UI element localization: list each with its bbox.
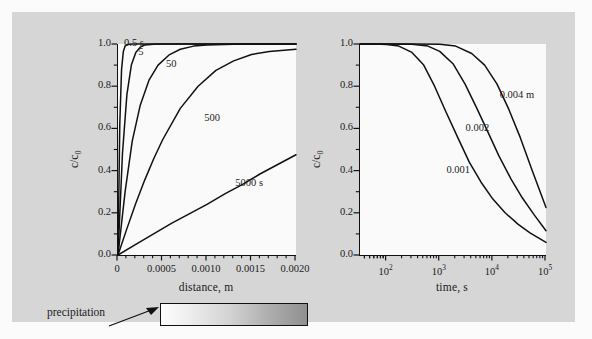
precipitation-label: precipitation [47, 306, 105, 318]
xtick-label-1: 0.0005 [138, 263, 186, 274]
xtick-label-1: 103 [415, 263, 463, 277]
precipitation-arrow-icon [107, 304, 167, 330]
yaxis-title: c/c0 [310, 150, 325, 168]
ytick-label-3: 0.6 [327, 121, 353, 132]
precipitation-gradient-bar [160, 303, 308, 326]
curve-label-500-s: 500 [204, 112, 220, 123]
xaxis-title: time, s [412, 281, 492, 293]
xtick-label-2: 104 [468, 263, 516, 277]
ytick-label-3: 0.6 [85, 121, 111, 132]
ytick-label-4: 0.8 [85, 79, 111, 90]
ytick-label-1: 0.2 [327, 206, 353, 217]
xtick-label-4: 0.0020 [271, 263, 319, 274]
ytick-label-0: 0.0 [85, 248, 111, 259]
right-plot-axis-ticks [359, 44, 551, 274]
curve-label-50-s: 50 [166, 58, 177, 69]
xtick-label-0: 0 [93, 263, 141, 274]
left-plot-axis-ticks [117, 44, 302, 274]
yaxis-title: c/c0 [68, 150, 83, 168]
figure-panel: 0.00.20.40.60.81.000.00050.00100.00150.0… [12, 12, 575, 322]
xtick-label-2: 0.0010 [182, 263, 230, 274]
ytick-label-5: 1.0 [327, 37, 353, 48]
curve-label-0-004-m: 0.004 m [500, 89, 534, 100]
ytick-label-4: 0.8 [327, 79, 353, 90]
xtick-label-3: 0.0015 [227, 263, 275, 274]
curve-label-5000-s: 5000 s [235, 177, 263, 188]
xtick-label-3: 105 [521, 263, 569, 277]
curve-label-0-001-m: 0.001 [446, 164, 470, 175]
ytick-label-2: 0.4 [327, 164, 353, 175]
ytick-label-1: 0.2 [85, 206, 111, 217]
ytick-label-0: 0.0 [327, 248, 353, 259]
ytick-label-5: 1.0 [85, 37, 111, 48]
ytick-label-2: 0.4 [85, 164, 111, 175]
xtick-label-0: 102 [362, 263, 410, 277]
curve-label-5-s: 5 [138, 46, 143, 57]
xaxis-title: distance, m [166, 281, 246, 293]
curve-label-0-002-m: 0.002 [466, 122, 490, 133]
